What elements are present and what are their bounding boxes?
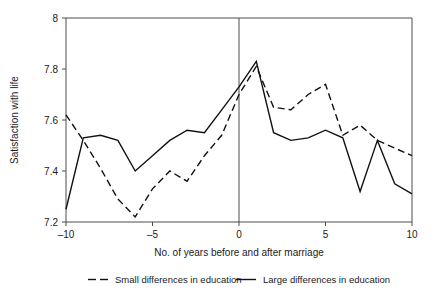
satisfaction-with-life-line-chart: 7.27.47.67.88 –10–50510 Satisfaction wit… bbox=[0, 0, 433, 296]
y-axis-tick-labels: 7.27.47.67.88 bbox=[44, 13, 58, 228]
chart-figure: 7.27.47.67.88 –10–50510 Satisfaction wit… bbox=[0, 0, 433, 296]
y-tick-label: 7.4 bbox=[44, 166, 58, 177]
x-tick-label: 0 bbox=[236, 229, 242, 240]
y-axis: 7.27.47.67.88 bbox=[44, 13, 66, 228]
x-tick-label: –10 bbox=[58, 229, 75, 240]
x-tick-label: 10 bbox=[406, 229, 418, 240]
y-axis-ticks bbox=[62, 18, 66, 222]
y-tick-label: 8 bbox=[52, 13, 58, 24]
y-axis-label: Satisfaction with life bbox=[9, 76, 20, 164]
legend-label: Large differences in education bbox=[263, 274, 390, 285]
y-tick-label: 7.2 bbox=[44, 217, 58, 228]
x-axis-tick-labels: –10–50510 bbox=[58, 229, 418, 240]
x-tick-label: –5 bbox=[147, 229, 159, 240]
x-axis-label: No. of years before and after marriage bbox=[154, 247, 324, 258]
chart-legend: Small differences in educationLarge diff… bbox=[88, 274, 390, 285]
x-tick-label: 5 bbox=[323, 229, 329, 240]
legend-label: Small differences in education bbox=[115, 274, 242, 285]
y-tick-label: 7.8 bbox=[44, 64, 58, 75]
y-tick-label: 7.6 bbox=[44, 115, 58, 126]
x-axis-ticks bbox=[66, 222, 412, 226]
